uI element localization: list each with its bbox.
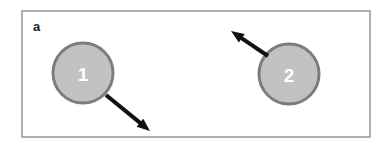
figure-canvas: a 1 2: [0, 0, 385, 152]
node-label-2: 2: [284, 65, 295, 86]
panel-label: a: [33, 19, 41, 34]
figure-panel: a 1 2: [0, 0, 385, 152]
node-group-2[interactable]: 2: [259, 44, 319, 104]
node-label-1: 1: [78, 64, 89, 85]
node-group-1[interactable]: 1: [53, 43, 113, 103]
